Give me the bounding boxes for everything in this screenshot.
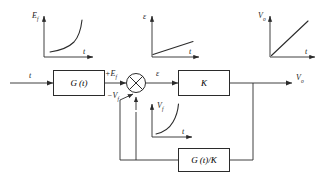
signal-label-output-vo: Vo <box>296 74 304 84</box>
wire-feedback-into-summer <box>120 94 133 100</box>
block-diagram-canvas: G (t) K G (t)/K t +Ef −Vf ε Vo Ef t ε t … <box>0 0 325 182</box>
plot-vf-xlabel: t <box>182 128 184 136</box>
signal-label-minus-vf: −Vf <box>107 92 119 102</box>
plot-epsilon-vs-t-axes <box>152 16 199 57</box>
signal-label-input: t <box>29 72 31 80</box>
block-k-label: K <box>201 78 207 88</box>
summing-junction-symbol <box>127 74 146 93</box>
block-g-of-t[interactable]: G (t) <box>53 70 105 96</box>
diagram-vector-layer <box>0 0 325 182</box>
plot-ef-vs-t-curve <box>50 20 82 52</box>
block-g-of-t-over-k[interactable]: G (t)/K <box>178 148 230 172</box>
plot-vo-ylabel: Vo <box>258 12 266 22</box>
block-g-of-t-over-k-label: G (t)/K <box>191 155 217 165</box>
signal-label-plus-ef: +Ef <box>105 70 117 80</box>
plot-ef-xlabel: t <box>83 48 85 56</box>
plot-vf-ylabel: Vf <box>157 102 164 112</box>
plot-epsilon-xlabel: t <box>189 48 191 56</box>
signal-label-epsilon: ε <box>156 70 159 78</box>
plot-ef-ylabel: Ef <box>32 12 39 22</box>
plot-epsilon-ylabel: ε <box>143 13 146 21</box>
plot-vo-vs-t-curve <box>272 21 309 56</box>
plot-ef-vs-t-axes <box>44 16 93 57</box>
block-k[interactable]: K <box>178 70 230 96</box>
plot-vo-xlabel: t <box>305 48 307 56</box>
block-g-of-t-label: G (t) <box>70 78 87 88</box>
plot-epsilon-vs-t-curve <box>153 42 193 55</box>
